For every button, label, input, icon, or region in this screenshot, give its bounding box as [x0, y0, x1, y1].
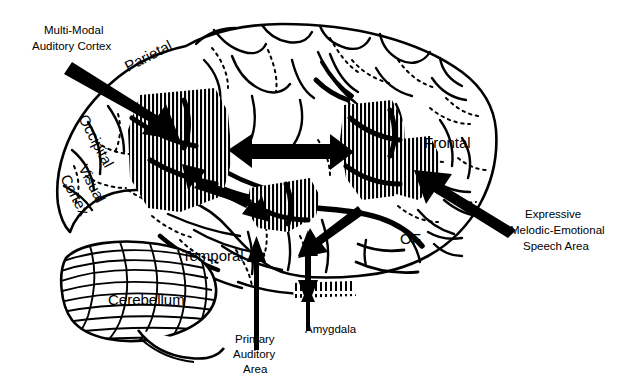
label-multi-modal-line2: Auditory Cortex [32, 40, 112, 52]
label-of: OF [400, 230, 421, 247]
label-primary-auditory-line2: Auditory [233, 348, 275, 360]
label-cerebellum: Cerebellum [108, 291, 185, 308]
label-expressive-line3: Speech Area [523, 240, 589, 252]
label-amygdala: Amygdala [305, 323, 357, 335]
label-frontal: Frontal [424, 134, 471, 151]
label-expressive-line2: Melodic-Emotional [510, 224, 605, 236]
label-primary-auditory-line1: Primary [235, 333, 275, 345]
label-expressive-line1: Expressive [525, 208, 581, 220]
label-temporal: Temporal [182, 247, 244, 264]
label-primary-auditory-line3: Area [243, 363, 268, 375]
label-multi-modal-line1: Multi-Modal [44, 24, 103, 36]
brain-diagram-svg: Multi-Modal Auditory Cortex Expressive M… [0, 0, 617, 391]
brain-diagram-figure: Multi-Modal Auditory Cortex Expressive M… [0, 0, 617, 391]
